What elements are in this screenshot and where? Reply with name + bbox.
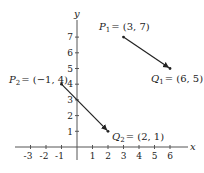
svg-text:6: 6	[67, 48, 73, 58]
svg-text:4: 4	[136, 151, 142, 161]
point-q1	[169, 67, 172, 70]
svg-text:-1: -1	[55, 151, 64, 161]
svg-text:5: 5	[67, 64, 73, 74]
coordinate-plane: x y -3 -2 -1 1 2 3 4 5 6 1 2 3 4	[0, 0, 204, 173]
segment-p1-q1	[124, 37, 170, 68]
svg-text:2: 2	[105, 151, 111, 161]
svg-text:1: 1	[90, 151, 96, 161]
label-p2: P2= (−1, 4)	[8, 74, 68, 87]
point-q2	[107, 130, 110, 133]
svg-text:4: 4	[67, 79, 73, 89]
svg-text:3: 3	[121, 151, 127, 161]
svg-text:7: 7	[67, 32, 73, 42]
y-axis-label: y	[73, 8, 80, 19]
svg-text:5: 5	[152, 151, 158, 161]
svg-text:1: 1	[67, 127, 73, 137]
svg-text:2: 2	[67, 111, 73, 121]
label-q1: Q1= (6, 5)	[151, 73, 203, 86]
svg-text:-2: -2	[40, 151, 49, 161]
label-p1: P1= (3, 7)	[98, 21, 150, 34]
x-tick-labels: -3 -2 -1 1 2 3 4 5 6	[24, 151, 174, 161]
point-p1	[122, 36, 125, 39]
y-tick-labels: 1 2 3 4 5 6 7	[67, 32, 73, 136]
svg-text:3: 3	[67, 95, 73, 105]
label-q2: Q2= (2, 1)	[112, 131, 164, 144]
svg-text:6: 6	[167, 151, 173, 161]
x-axis-label: x	[190, 141, 196, 152]
segment-p2-q2	[62, 84, 108, 130]
svg-text:-3: -3	[24, 151, 33, 161]
